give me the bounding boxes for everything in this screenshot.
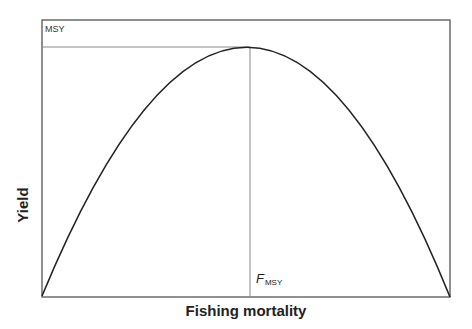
y-axis-label: Yield bbox=[14, 187, 31, 222]
yield-curve bbox=[42, 47, 450, 297]
x-axis-label: Fishing mortality bbox=[0, 302, 472, 319]
plot-frame bbox=[42, 20, 450, 297]
fmsy-subscript: MSY bbox=[265, 278, 282, 287]
fmsy-annotation: FMSY bbox=[256, 271, 282, 287]
yield-chart bbox=[0, 0, 472, 329]
msy-annotation: MSY bbox=[45, 24, 65, 34]
fmsy-main: F bbox=[256, 271, 264, 286]
